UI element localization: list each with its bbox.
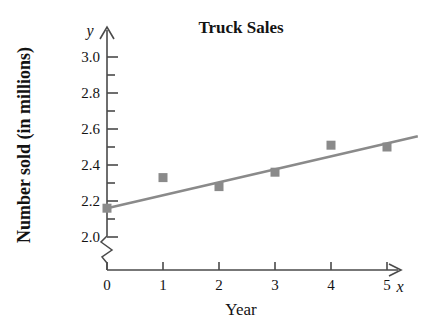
truck-sales-scatter-plot: Truck Sales Number sold (in millions) Ye…: [0, 0, 421, 328]
x-tick-label-0: 0: [103, 277, 111, 293]
y-tick-label-2-4: 2.4: [81, 157, 100, 173]
line-of-best-fit: [107, 136, 418, 208]
y-tick-label-2-6: 2.6: [81, 121, 100, 137]
y-axis-label: Number sold (in millions): [14, 47, 35, 243]
data-point-4: [327, 141, 336, 150]
x-axis-label: Year: [225, 300, 257, 319]
data-point-2: [215, 182, 224, 191]
x-tick-label-1: 1: [159, 277, 167, 293]
chart-title: Truck Sales: [198, 18, 284, 37]
y-tick-label-2-0: 2.0: [81, 229, 100, 245]
x-axis-tick-labels: 0 1 2 3 4 5: [103, 277, 391, 293]
x-tick-label-4: 4: [327, 277, 335, 293]
data-point-5: [383, 143, 392, 152]
data-point-0: [103, 204, 112, 213]
data-point-1: [159, 173, 168, 182]
chart-page: Truck Sales Number sold (in millions) Ye…: [0, 0, 421, 328]
y-axis-tick-labels: 3.0 2.8 2.6 2.4 2.2 2.0: [81, 49, 100, 245]
y-axis-variable-label: y: [84, 22, 94, 40]
x-axis-variable-label: x: [395, 278, 403, 295]
x-tick-label-3: 3: [271, 277, 279, 293]
y-axis-minor-ticks: [107, 75, 115, 219]
x-tick-label-5: 5: [383, 277, 391, 293]
x-axis-ticks: [107, 262, 387, 270]
y-tick-label-2-2: 2.2: [81, 193, 100, 209]
y-tick-label-3-0: 3.0: [81, 49, 100, 65]
y-tick-label-2-8: 2.8: [81, 85, 100, 101]
data-point-3: [271, 168, 280, 177]
x-tick-label-2: 2: [215, 277, 223, 293]
